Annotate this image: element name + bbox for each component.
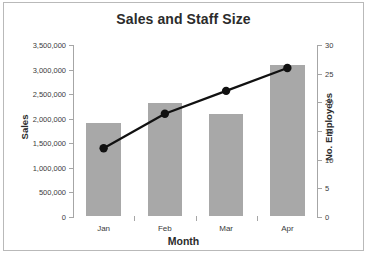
y-axis-left-tick [69, 45, 74, 46]
y-axis-left-tick-label: 2,000,000 [33, 114, 66, 123]
y-axis-left-tick-label: 2,500,000 [33, 90, 66, 99]
y-axis-left-tick-label: 1,500,000 [33, 139, 66, 148]
data-point-marker [283, 64, 291, 72]
employees-line-path [104, 68, 288, 148]
plot-area: 0500,0001,000,0001,500,0002,000,0002,500… [73, 45, 318, 217]
y-axis-right-tick [317, 217, 322, 218]
x-axis-title: Month [4, 235, 363, 247]
y-axis-left-tick [69, 192, 74, 193]
y-axis-right-tick-label: 25 [325, 69, 333, 78]
y-axis-right-tick [317, 160, 322, 161]
y-axis-right-tick-label: 20 [325, 98, 333, 107]
x-axis-category-label: Apr [281, 224, 293, 233]
chart-frame: Sales and Staff Size Sales No. Employees… [3, 2, 364, 251]
y-axis-right-tick-label: 5 [325, 184, 329, 193]
y-axis-left-tick-label: 0 [62, 213, 66, 222]
y-axis-left-tick-label: 3,500,000 [33, 41, 66, 50]
y-axis-right-tick [317, 188, 322, 189]
y-axis-right-tick-label: 30 [325, 41, 333, 50]
y-axis-left-tick [69, 143, 74, 144]
y-axis-left-tick [69, 94, 74, 95]
x-axis-category-label: Feb [158, 224, 172, 233]
y-axis-right-tick [317, 45, 322, 46]
x-axis-category-label: Jan [97, 224, 110, 233]
y-axis-right-tick-label: 15 [325, 127, 333, 136]
y-axis-right-tick [317, 102, 322, 103]
x-axis-tick [134, 216, 135, 221]
data-point-marker [99, 144, 107, 152]
x-axis-category-label: Mar [219, 224, 233, 233]
x-axis-tick [196, 216, 197, 221]
y-axis-left-tick [69, 168, 74, 169]
y-axis-right-tick [317, 74, 322, 75]
x-axis-tick [257, 216, 258, 221]
y-axis-left-tick-label: 500,000 [39, 188, 66, 197]
y-axis-right-tick-label: 0 [325, 213, 329, 222]
y-axis-left-tick [69, 70, 74, 71]
y-axis-right-tick [317, 131, 322, 132]
chart-title: Sales and Staff Size [4, 11, 363, 27]
data-point-marker [222, 87, 230, 95]
data-point-marker [161, 110, 169, 118]
y-axis-right-tick-label: 10 [325, 155, 333, 164]
y-axis-left-tick [69, 217, 74, 218]
y-axis-left-line [73, 45, 74, 217]
y-axis-title: Sales [19, 114, 30, 139]
y-axis-left-tick [69, 119, 74, 120]
line-series-no-of-employees [73, 45, 318, 217]
y-axis-left-tick-label: 1,000,000 [33, 163, 66, 172]
y-axis-left-tick-label: 3,000,000 [33, 65, 66, 74]
